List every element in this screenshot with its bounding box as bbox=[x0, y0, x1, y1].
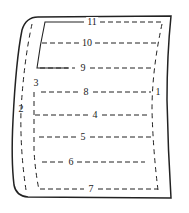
label-5: 5 bbox=[80, 132, 87, 142]
label-6: 6 bbox=[68, 157, 75, 167]
label-1: 1 bbox=[155, 87, 162, 97]
label-7: 7 bbox=[88, 184, 95, 194]
label-8: 8 bbox=[83, 87, 90, 97]
label-2: 2 bbox=[18, 104, 25, 114]
label-11: 11 bbox=[86, 17, 98, 27]
fold-line-3 bbox=[34, 92, 39, 190]
fold-pattern-diagram: 11 10 9 8 3 1 2 4 5 6 7 bbox=[0, 0, 189, 213]
label-4: 4 bbox=[92, 110, 99, 120]
inner-solid-frame bbox=[37, 22, 84, 68]
pattern-lines bbox=[0, 0, 189, 213]
label-3: 3 bbox=[33, 78, 40, 88]
label-9: 9 bbox=[80, 63, 87, 73]
label-10: 10 bbox=[81, 38, 93, 48]
fold-line-1 bbox=[152, 24, 162, 190]
